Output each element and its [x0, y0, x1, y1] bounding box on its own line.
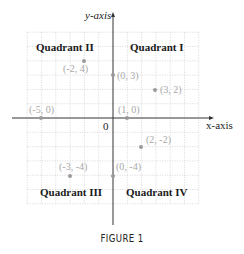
figure-caption: FIGURE 1 — [100, 232, 143, 244]
point-neg2-4: (-2, 4) — [63, 59, 88, 75]
point-marker-icon — [111, 174, 115, 178]
quadrant-3-label: Quadrant III — [40, 186, 102, 198]
point-label: (2, -2) — [146, 134, 171, 146]
point-label: (1, 0) — [118, 104, 140, 116]
point-marker-icon — [153, 88, 157, 92]
x-axis-label: x-axis — [206, 119, 233, 131]
point-marker-icon — [125, 116, 129, 120]
quadrant-4-label: Quadrant IV — [126, 186, 187, 198]
y-axis-label: y-axis — [84, 9, 111, 21]
coordinate-plane-figure: y-axis x-axis 0 Quadrant II Quadrant I Q… — [0, 0, 244, 254]
point-label: (-2, 4) — [63, 63, 88, 75]
point-label: (0, 3) — [117, 70, 139, 82]
point-label: (3, 2) — [160, 84, 182, 96]
point-marker-icon — [39, 116, 43, 120]
origin-label: 0 — [103, 120, 109, 132]
quadrant-1-label: Quadrant I — [130, 41, 184, 53]
point-3-2: (3, 2) — [153, 84, 182, 96]
point-label: (-5, 0) — [29, 104, 54, 116]
point-marker-icon — [111, 73, 115, 77]
point-marker-icon — [139, 145, 143, 149]
point-label: (0, -4) — [116, 161, 141, 173]
y-axis-arrow-icon — [111, 12, 115, 17]
point-label: (-3, -4) — [59, 161, 87, 173]
quadrant-2-label: Quadrant II — [36, 41, 94, 53]
point-0-3: (0, 3) — [111, 70, 139, 82]
point-marker-icon — [68, 174, 72, 178]
